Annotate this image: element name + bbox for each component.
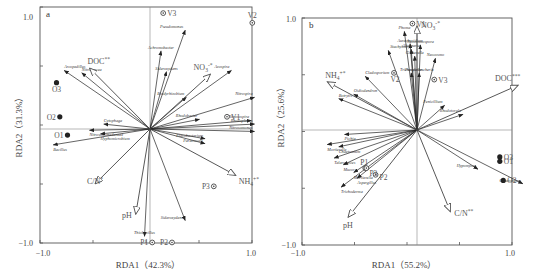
species-label-pseudallescheria: Pseudallescheria: [404, 67, 434, 72]
species-label-aspergillus: Aspergillus: [356, 180, 376, 185]
site-marker-dot: [162, 12, 164, 14]
panel-a: a 1.0 −1.0 −1.0 1.0 RDA1（42.3%） RDA2（31.…: [14, 7, 259, 270]
species-label-neocosmo: Neocosmo: [426, 52, 444, 57]
site-marker-dot: [171, 242, 173, 244]
env-label-c-n: C/N*: [87, 176, 103, 186]
species-arrow-azospira: [150, 70, 231, 129]
species-label-trichoderma: Trichoderma: [341, 189, 363, 194]
species-label-cytophaga: Cytophaga: [104, 118, 122, 123]
species-label-phoma: Phoma: [397, 25, 410, 30]
arrows-b: PhomaAureobasidiumAlternariaGibberellaNe…: [325, 20, 523, 231]
species-arrow-rhodotorula: [417, 114, 463, 130]
species-arrow-sideroxydans: [150, 72, 167, 129]
xtick-min-a: −1.0: [36, 249, 51, 258]
species-label-stachybotrys: Stachybotrys: [390, 44, 412, 49]
species-arrow-cladosporium: [365, 76, 417, 130]
ytick-max-a: 1.0: [23, 13, 33, 22]
site-marker-dot: [151, 242, 153, 244]
site-label-o2: O2: [507, 176, 516, 185]
env-label-doc: DOC**: [88, 56, 111, 66]
site-label-o3: O3: [504, 153, 513, 162]
species-label-botrytis: Botrytis: [339, 93, 353, 98]
species-label-neocosmospora: Neocosmospora: [406, 39, 434, 44]
site-marker-dot: [252, 22, 254, 24]
species-arrow-sideroxydans: [150, 129, 185, 221]
y-axis-label-b: RDA2（25.6%）: [276, 83, 286, 148]
site-marker-o3: [497, 154, 502, 159]
species-label-sideroxydans: Sideroxydans: [161, 215, 184, 220]
species-label-oidiodendron: Oidiodendron: [354, 88, 377, 93]
xtick-max-b: 1.0: [505, 249, 515, 258]
site-marker-dot: [412, 23, 414, 25]
site-label-o3: O3: [52, 85, 61, 94]
rda-biplot-figure: a 1.0 −1.0 −1.0 1.0 RDA1（42.3%） RDA2（31.…: [0, 0, 542, 275]
env-label-ph: pH: [122, 211, 132, 220]
env-arrow-no3: [150, 74, 211, 129]
env-label-doc: DOC***: [495, 73, 520, 83]
species-label-cladosporium: Cladosporium: [365, 70, 389, 75]
site-label-v1: V1: [416, 20, 425, 29]
species-label-pseudomonas: Pseudomonas: [159, 24, 184, 29]
species-label-gibberella: Gibberella: [406, 50, 424, 55]
species-label-mucor: Mucor: [342, 167, 355, 172]
site-label-v1: V1: [231, 113, 240, 122]
env-label-c-n: C/N**: [454, 208, 473, 218]
site-label-p3: P3: [202, 182, 210, 191]
site-marker-dot: [433, 79, 435, 81]
arrows-a: ArcopedillusNitrolanceaPseudomonasAchrom…: [53, 24, 259, 236]
env-label-ph: pH: [343, 221, 353, 230]
site-label-v3: V3: [167, 9, 176, 18]
env-arrow-c-n: [417, 130, 450, 212]
species-label-penicillium: Penicillium: [422, 99, 442, 104]
site-marker-o1: [65, 133, 70, 138]
species-label-nitrosomonas: Nitrosomonas: [228, 125, 253, 130]
species-label-nitrospira: Nitrospira: [234, 91, 252, 96]
site-label-o1: O1: [54, 131, 63, 140]
env-label-nh4: NH4+*: [239, 176, 259, 187]
species-label-hypomyces: Hypomyces: [456, 163, 477, 168]
site-marker-dot: [226, 116, 228, 118]
site-label-v2: V2: [390, 75, 399, 84]
panel-b: b 1.0 −1.0 −1.0 1.0 RDA1（55.2%） RDA2（25.…: [276, 15, 523, 270]
site-marker-o2: [501, 178, 506, 183]
species-label-bradyrhizobium: Bradyrhizobium: [157, 91, 184, 96]
species-label-achromobacter: Achromobacter: [147, 45, 174, 50]
site-label-o2: O2: [47, 113, 56, 122]
site-label-v2: V2: [248, 11, 257, 20]
xtick-max-a: 1.0: [246, 249, 256, 258]
site-label-p3: P3: [369, 169, 377, 178]
species-arrow-achromobacter: [150, 51, 161, 129]
site-marker-dot: [213, 186, 215, 188]
x-axis-label-b: RDA1（55.2%）: [372, 260, 437, 270]
ytick-min-a: −1.0: [18, 239, 33, 248]
species-label-rhodotorula: Rhodotorula: [439, 108, 461, 113]
species-arrow-cytophaga: [104, 124, 150, 129]
species-label-thiobacillus: Thiobacillus: [134, 230, 155, 235]
env-label-nh4: NH4+*: [325, 70, 345, 81]
panel-letter-b: b: [309, 20, 314, 30]
ytick-max-b: 1.0: [286, 15, 296, 24]
species-label-azospira: Azospira: [213, 64, 229, 69]
env-label-no3: NO3-*: [194, 62, 213, 73]
site-marker-o2: [57, 114, 62, 119]
site-label-p2: P2: [380, 173, 388, 182]
species-arrow-mortierella: [327, 130, 417, 145]
env-arrow-doc: [417, 85, 518, 130]
xtick-min-b: −1.0: [291, 249, 306, 258]
site-marker-dot: [366, 167, 368, 169]
site-label-p1: P1: [140, 238, 148, 247]
y-axis-label-a: RDA2（31.3%）: [14, 93, 24, 158]
x-axis-label-a: RDA1（42.3%）: [116, 260, 181, 270]
site-label-p2: P2: [160, 238, 168, 247]
species-label-bacillus: Bacillus: [53, 147, 67, 152]
species-label-sideroxydans: Sideroxydans: [155, 66, 178, 71]
site-label-v3: V3: [438, 76, 447, 85]
site-marker-o1: [497, 159, 502, 164]
species-label-paracoccus: Paracoccus: [182, 138, 203, 143]
species-label-rhodobacter: Rhodobacter: [175, 113, 198, 118]
species-arrow-botrytis: [339, 99, 417, 130]
site-marker-dot: [393, 72, 395, 74]
panel-letter-a: a: [46, 9, 50, 19]
